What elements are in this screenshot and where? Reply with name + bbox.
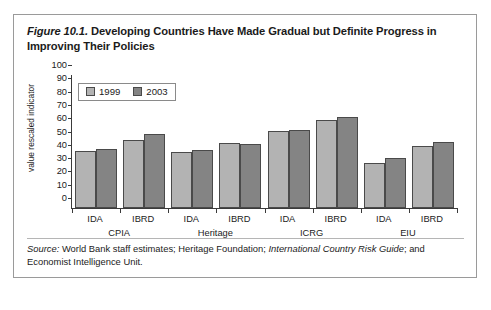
x-axis-tick (361, 208, 362, 213)
bar-2003-ibrd-1 (144, 134, 165, 208)
legend-label-2003: 2003 (146, 86, 167, 97)
x-axis-label-ida-0: IDA (71, 214, 119, 224)
y-axis-tick: 60 (57, 113, 72, 123)
legend-swatch-2003 (133, 87, 142, 96)
y-axis-tick: 10 (57, 180, 72, 190)
bar-group (409, 75, 457, 208)
source-note: Source: World Bank staff estimates; Heri… (27, 243, 467, 268)
y-axis-tick: 70 (57, 100, 72, 110)
x-axis-group-labels: CPIAHeritageICRGEIU (71, 228, 456, 238)
bar-1999-ibrd-7 (412, 146, 433, 208)
source-divider (27, 238, 464, 239)
x-axis-label-ida-4: IDA (264, 214, 312, 224)
bar-1999-ibrd-5 (316, 120, 337, 208)
chart-legend: 19992003 (78, 83, 176, 101)
bar-1999-ida-6 (364, 163, 385, 208)
y-axis-tick: 50 (57, 127, 72, 137)
y-axis-title: value rescaled indicator (26, 63, 36, 193)
source-text-1: World Bank staff estimates; Heritage Fou… (59, 243, 268, 254)
bar-2003-ida-2 (192, 150, 213, 208)
bar-group (216, 75, 264, 208)
y-axis-tick: 0 (62, 193, 72, 203)
figure-title: Figure 10.1. Developing Countries Have M… (27, 24, 463, 53)
bar-group (313, 75, 361, 208)
legend-item-1999: 1999 (86, 86, 120, 97)
bar-2003-ida-4 (289, 130, 310, 208)
bar-group (265, 75, 313, 208)
bar-2003-ida-6 (385, 158, 406, 208)
bar-1999-ida-4 (268, 131, 289, 208)
bar-2003-ibrd-5 (337, 117, 358, 208)
bar-2003-ida-0 (96, 149, 117, 208)
x-axis-tick (216, 208, 217, 213)
bar-2003-ibrd-3 (240, 144, 261, 209)
x-axis-label-ibrd-3: IBRD (215, 214, 263, 224)
x-axis-label-ibrd-1: IBRD (119, 214, 167, 224)
x-axis-tick (409, 208, 410, 213)
x-axis-label-ibrd-5: IBRD (312, 214, 360, 224)
y-axis-tick: 90 (57, 73, 72, 83)
bar-group (361, 75, 409, 208)
x-axis-group-cpia: CPIA (71, 228, 167, 238)
figure-number: Figure 10.1. (27, 25, 88, 37)
y-axis-tick: 80 (57, 87, 72, 97)
x-axis-group-icrg: ICRG (264, 228, 360, 238)
legend-item-2003: 2003 (133, 86, 167, 97)
x-axis-group-heritage: Heritage (167, 228, 263, 238)
bar-2003-ibrd-7 (433, 142, 454, 209)
x-axis-group-eiu: EIU (360, 228, 456, 238)
x-axis-tick (457, 208, 458, 213)
y-axis-tick: 100 (51, 60, 72, 70)
x-axis-tick (120, 208, 121, 213)
legend-label-1999: 1999 (99, 86, 120, 97)
chart-area: value rescaled indicator 010203040506070… (14, 67, 476, 230)
legend-swatch-1999 (86, 87, 95, 96)
y-axis-tick: 40 (57, 140, 72, 150)
x-axis-labels: IDAIBRDIDAIBRDIDAIBRDIDAIBRD (71, 214, 456, 224)
source-prefix: Source: (27, 243, 59, 254)
x-axis-tick (72, 208, 73, 213)
x-axis-label-ibrd-7: IBRD (408, 214, 456, 224)
figure-box: Figure 10.1. Developing Countries Have M… (13, 14, 477, 278)
x-axis-tick (313, 208, 314, 213)
figure-title-text: Developing Countries Have Made Gradual b… (27, 25, 437, 52)
x-axis-label-ida-6: IDA (360, 214, 408, 224)
y-axis-tick: 20 (57, 166, 72, 176)
bar-1999-ibrd-1 (123, 140, 144, 208)
x-axis-tick (265, 208, 266, 213)
x-axis-label-ida-2: IDA (167, 214, 215, 224)
x-axis-tick (168, 208, 169, 213)
bar-1999-ida-2 (171, 152, 192, 208)
bar-1999-ibrd-3 (219, 143, 240, 208)
bar-1999-ida-0 (75, 151, 96, 208)
y-axis-tick: 30 (57, 153, 72, 163)
source-italic-title: International Country Risk Guide (268, 243, 403, 254)
